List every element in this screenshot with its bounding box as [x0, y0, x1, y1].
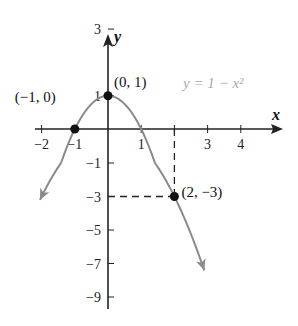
y-axis-label: y	[112, 28, 122, 46]
y-tick-label: −5	[86, 223, 101, 238]
highlighted-point	[170, 192, 179, 201]
y-tick-label: −3	[86, 190, 101, 205]
point-label: (−1, 0)	[15, 89, 56, 106]
x-tick-label: 1	[138, 137, 145, 152]
y-tick-label: −9	[86, 290, 101, 305]
y-tick-label: 3	[94, 22, 101, 37]
parabola-path	[40, 96, 204, 271]
x-tick-label: −2	[34, 137, 49, 152]
axes: −2−113431−1−3−5−7−9yx	[34, 22, 283, 309]
point-label: (0, 1)	[114, 74, 147, 91]
equation-label: y = 1 − x²	[181, 75, 244, 91]
highlighted-point	[104, 91, 113, 100]
x-axis-label: x	[271, 106, 280, 123]
y-tick-label: −7	[86, 257, 101, 272]
x-tick-label: 4	[237, 137, 244, 152]
highlighted-points	[70, 91, 179, 201]
x-tick-label: 3	[204, 137, 211, 152]
point-label: (2, −3)	[181, 184, 222, 201]
parabola-chart: −2−113431−1−3−5−7−9yx (−1, 0)(0, 1)(2, −…	[0, 0, 298, 326]
y-tick-label: −1	[86, 156, 101, 171]
highlighted-point	[70, 125, 79, 134]
